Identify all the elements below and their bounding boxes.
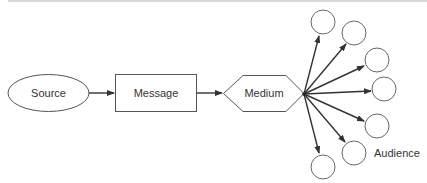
arrow-to-audience-5 <box>304 94 364 121</box>
audience-circle-4 <box>372 77 396 101</box>
communication-diagram: Source Message Medium Audience <box>0 0 427 183</box>
source-label: Source <box>31 87 66 99</box>
medium-label: Medium <box>244 87 283 99</box>
audience-label: Audience <box>374 147 420 159</box>
hub-point <box>302 92 306 96</box>
medium-node: Medium <box>224 76 305 112</box>
audience-circle-6 <box>342 141 366 165</box>
audience-circle-2 <box>342 21 366 45</box>
audience-circle-3 <box>365 48 389 72</box>
source-node: Source <box>8 75 89 112</box>
audience-group: Audience <box>311 10 420 179</box>
broadcast-arrows <box>302 36 371 153</box>
audience-circle-5 <box>365 114 389 138</box>
arrow-to-audience-3 <box>304 66 364 94</box>
message-label: Message <box>134 87 179 99</box>
message-node: Message <box>116 75 197 112</box>
arrow-to-audience-4 <box>304 91 371 94</box>
audience-circle-7 <box>311 155 335 179</box>
audience-circle-1 <box>311 10 335 34</box>
